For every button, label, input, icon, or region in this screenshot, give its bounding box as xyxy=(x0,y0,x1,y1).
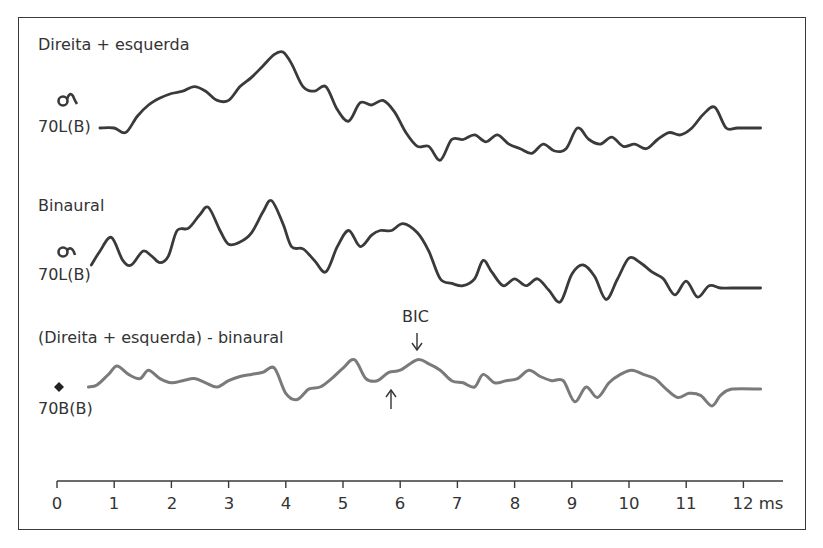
trace-2 xyxy=(91,200,760,302)
onset-arrow-up-icon xyxy=(386,390,396,409)
trace1-stimulus-label: 70L(B) xyxy=(38,117,91,136)
trace2-title: Binaural xyxy=(38,196,104,215)
trace3-stimulus-label: 70B(B) xyxy=(38,399,93,418)
trace1-title: Direita + esquerda xyxy=(38,35,190,54)
trace-3 xyxy=(89,359,761,405)
tick-label-3: 3 xyxy=(224,494,235,513)
bic-annotation: BIC xyxy=(402,307,429,326)
tick-label-12: 12 ms xyxy=(733,494,784,513)
tick-label-7: 7 xyxy=(452,494,463,513)
tick-label-11: 11 xyxy=(676,494,697,513)
trace2-stimulus-label: 70L(B) xyxy=(38,265,91,284)
waveform-plot xyxy=(0,0,823,548)
x-axis xyxy=(57,481,783,488)
tick-label-4: 4 xyxy=(281,494,292,513)
tick-label-2: 2 xyxy=(167,494,178,513)
tick-label-10: 10 xyxy=(619,494,640,513)
tick-label-5: 5 xyxy=(338,494,349,513)
tick-label-6: 6 xyxy=(395,494,406,513)
headphone-left-icon-2 xyxy=(59,248,76,257)
diamond-marker-icon xyxy=(54,382,64,392)
tick-label-8: 8 xyxy=(510,494,521,513)
tick-label-1: 1 xyxy=(109,494,120,513)
headphone-left-icon xyxy=(59,94,78,105)
trace-1 xyxy=(100,51,761,160)
bic-arrow-down-icon xyxy=(412,333,422,350)
trace3-title: (Direita + esquerda) - binaural xyxy=(38,328,283,347)
traces-group xyxy=(89,51,761,405)
tick-label-9: 9 xyxy=(567,494,578,513)
tick-label-0: 0 xyxy=(52,494,63,513)
